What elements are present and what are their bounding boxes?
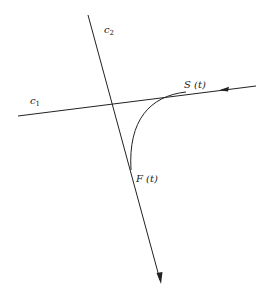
label-c1: c1 bbox=[30, 95, 40, 108]
arrow-c2-icon bbox=[157, 272, 163, 284]
line-c2 bbox=[88, 15, 160, 280]
line-c1 bbox=[18, 86, 256, 116]
label-S-t: S (t) bbox=[184, 79, 206, 90]
diagram: c1 c2 S (t) F (t) bbox=[0, 0, 266, 295]
transition-curve bbox=[131, 92, 186, 170]
label-F-t: F (t) bbox=[135, 173, 158, 184]
label-c2: c2 bbox=[104, 24, 114, 37]
